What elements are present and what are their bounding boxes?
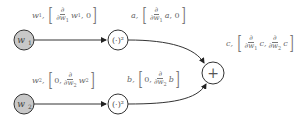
edge-label-w2: w2, [0, ∂∂w2 w2 ]: [32, 71, 96, 89]
svg-text:1: 1: [28, 39, 32, 46]
svg-text:2: 2: [28, 103, 32, 110]
node-plus: +: [202, 62, 224, 84]
edge-label-b: b, [0, ∂∂w2 b ]: [127, 70, 181, 88]
edge-sq1-plus: [128, 40, 204, 63]
node-square-1: (·)²: [108, 30, 128, 50]
edge-label-a: a, [ ∂∂w1 a, 0 ]: [131, 6, 187, 24]
node-w2: w 2: [14, 94, 34, 114]
svg-text:(·)²: (·)²: [112, 100, 124, 109]
edge-label-w1: w1, [ ∂∂w1 w1, 0 ]: [32, 6, 98, 24]
svg-text:+: +: [207, 65, 219, 81]
node-square-2: (·)²: [108, 94, 128, 114]
output-label-c: c, [ ∂∂w1 c, ∂∂w2 c ]: [226, 34, 295, 52]
svg-text:(·)²: (·)²: [112, 36, 124, 45]
node-w1: w 1: [14, 30, 34, 50]
svg-text:w: w: [17, 99, 25, 109]
svg-text:w: w: [17, 35, 25, 45]
